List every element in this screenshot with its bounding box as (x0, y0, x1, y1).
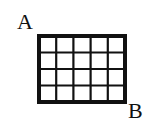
grid-diagram (0, 0, 146, 129)
grid-lines (39, 36, 125, 102)
